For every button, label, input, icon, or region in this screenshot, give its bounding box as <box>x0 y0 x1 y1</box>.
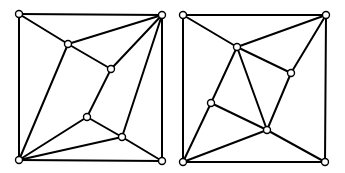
vertex-bl <box>180 159 187 166</box>
edge-b-c <box>87 69 111 117</box>
vertex-br <box>159 158 166 165</box>
vertex-q <box>288 70 295 77</box>
edge-tr-br <box>325 15 326 162</box>
right-graph <box>180 12 330 166</box>
vertex-c <box>84 114 91 121</box>
vertex-b <box>108 66 115 73</box>
edge-a-bl <box>19 44 68 160</box>
vertex-p <box>234 44 241 51</box>
edge-s-br <box>267 130 325 162</box>
edge-d-br <box>122 137 162 161</box>
edge-p-r <box>211 47 237 103</box>
vertex-tl <box>16 11 23 18</box>
edge-tl-p <box>183 15 237 47</box>
vertex-br <box>322 159 329 166</box>
edge-layer <box>183 15 326 162</box>
vertex-tl <box>180 12 187 19</box>
vertex-tr <box>159 12 166 19</box>
edge-a-b <box>68 44 111 69</box>
node-layer <box>16 11 166 165</box>
edge-br-bl <box>19 160 162 161</box>
edge-c-d <box>87 117 122 137</box>
edge-tr-q <box>291 15 326 73</box>
node-layer <box>180 12 330 166</box>
edge-d-bl <box>19 137 122 160</box>
vertex-d <box>119 134 126 141</box>
edge-c-bl <box>19 117 87 160</box>
vertex-a <box>65 41 72 48</box>
edge-p-tr <box>237 15 326 47</box>
edge-layer <box>19 14 162 161</box>
vertex-bl <box>16 157 23 164</box>
vertex-s <box>264 127 271 134</box>
edge-d-tr <box>122 15 162 137</box>
graph-diagram-canvas <box>0 0 345 173</box>
edge-tl-a <box>19 14 68 44</box>
left-graph <box>16 11 166 165</box>
vertex-r <box>208 100 215 107</box>
vertex-tr <box>323 12 330 19</box>
edge-tl-tr <box>19 14 162 15</box>
edge-q-s <box>267 73 291 130</box>
